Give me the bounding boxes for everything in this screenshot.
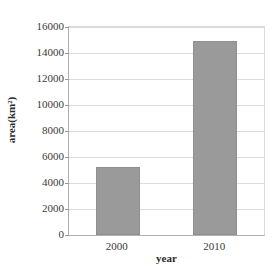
y-axis-tick-label: 10000: [16, 98, 64, 110]
x-axis-tick-label: 2000: [106, 240, 128, 252]
y-axis-tick-label: 8000: [16, 124, 64, 136]
x-axis-title: year: [68, 252, 265, 264]
y-axis-tick-labels: 0200040006000800010000120001400016000: [16, 26, 64, 236]
y-axis-tick-label: 2000: [16, 202, 64, 214]
bar-chart: area(km²) 020004000600080001000012000140…: [0, 0, 276, 275]
bar: [193, 41, 237, 235]
y-axis-tick-label: 14000: [16, 46, 64, 58]
plot-area: [68, 26, 265, 236]
bars-layer: [69, 27, 264, 235]
bar: [96, 167, 140, 235]
y-axis-tick-label: 6000: [16, 150, 64, 162]
y-axis-tick-label: 16000: [16, 20, 64, 32]
y-axis-tick-label: 4000: [16, 176, 64, 188]
y-axis-tick-label: 12000: [16, 72, 64, 84]
x-axis-tick-label: 2010: [203, 240, 225, 252]
y-axis-tick-label: 0: [16, 228, 64, 240]
